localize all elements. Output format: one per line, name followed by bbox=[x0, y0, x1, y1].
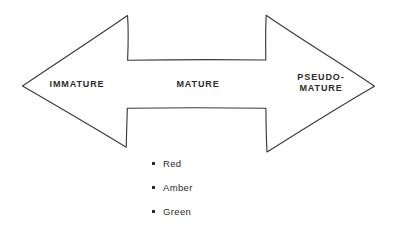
square-bullet-icon bbox=[152, 186, 155, 189]
stage-label-immature: IMMATURE bbox=[34, 79, 120, 90]
legend-label-green: Green bbox=[163, 206, 191, 217]
legend-item-red: Red bbox=[152, 151, 282, 175]
legend-item-green: Green bbox=[152, 199, 282, 223]
legend-label-red: Red bbox=[163, 158, 181, 169]
square-bullet-icon bbox=[152, 210, 155, 213]
rag-legend: Red Amber Green bbox=[152, 151, 282, 223]
stage-label-mature: MATURE bbox=[155, 79, 241, 90]
legend-item-amber: Amber bbox=[152, 175, 282, 199]
legend-label-amber: Amber bbox=[163, 182, 193, 193]
square-bullet-icon bbox=[152, 162, 155, 165]
diagram-canvas: IMMATURE MATURE PSEUDO- MATURE Red Amber… bbox=[0, 0, 395, 231]
stage-label-pseudo-mature: PSEUDO- MATURE bbox=[283, 72, 359, 94]
